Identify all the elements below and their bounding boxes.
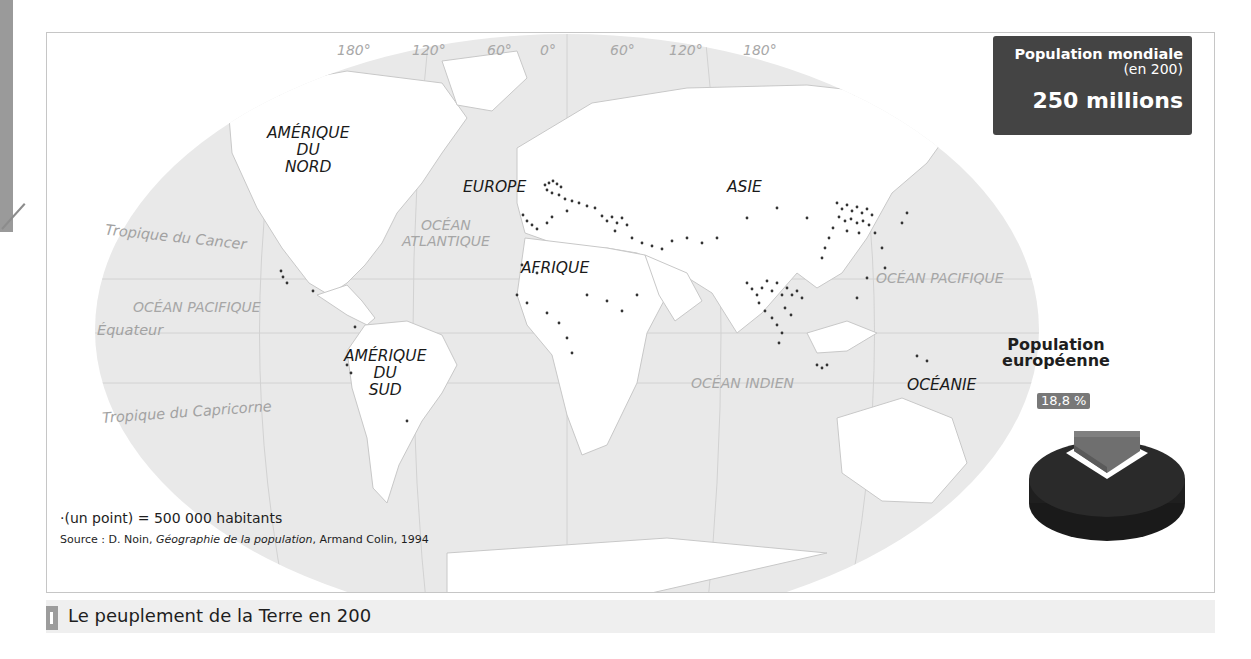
legend-text: (un point) = 500 000 habitants [64, 510, 282, 526]
longitude-label: 120° [669, 42, 703, 58]
continent-north-america: AMÉRIQUE DU NORD [267, 125, 349, 176]
longitude-label: 0° [540, 42, 556, 58]
page-side-tab [0, 0, 13, 232]
european-population-title: Population européenne [986, 337, 1126, 369]
caption-number-marker [46, 606, 58, 630]
map-legend: ·(un point) = 500 000 habitants [60, 510, 282, 526]
continent-oceania: OCÉANIE [907, 377, 976, 394]
longitude-label: 120° [412, 42, 446, 58]
longitude-label: 60° [487, 42, 512, 58]
world-population-title: Population mondiale [993, 46, 1183, 62]
ocean-indian: OCÉAN INDIEN [691, 375, 794, 391]
world-population-value: 250 millions [993, 88, 1183, 114]
longitude-label: 180° [337, 42, 371, 58]
continent-africa: AFRIQUE [521, 260, 589, 277]
map-figure: 180° 120° 60° 0° 60° 120° 180° Tropique … [46, 32, 1215, 593]
continent-asia: ASIE [727, 179, 762, 196]
source-citation: Source : D. Noin, Géographie de la popul… [60, 533, 429, 546]
european-share-badge: 18,8 % [1037, 393, 1090, 409]
figure-caption: Le peuplement de la Terre en 200 [68, 605, 371, 626]
continent-south-america: AMÉRIQUE DU SUD [344, 348, 426, 399]
longitude-label: 60° [610, 42, 635, 58]
european-share-pie-chart [1022, 423, 1192, 548]
world-population-subtitle: (en 200) [993, 62, 1183, 77]
equator-label: Équateur [97, 322, 163, 338]
ocean-atlantic: OCÉAN ATLANTIQUE [402, 217, 490, 249]
world-population-box: Population mondiale (en 200) 250 million… [993, 36, 1192, 135]
ocean-pacific-east: OCÉAN PACIFIQUE [876, 270, 1004, 286]
longitude-label: 180° [743, 42, 777, 58]
ocean-pacific-west: OCÉAN PACIFIQUE [133, 299, 261, 315]
continent-europe: EUROPE [463, 179, 526, 196]
